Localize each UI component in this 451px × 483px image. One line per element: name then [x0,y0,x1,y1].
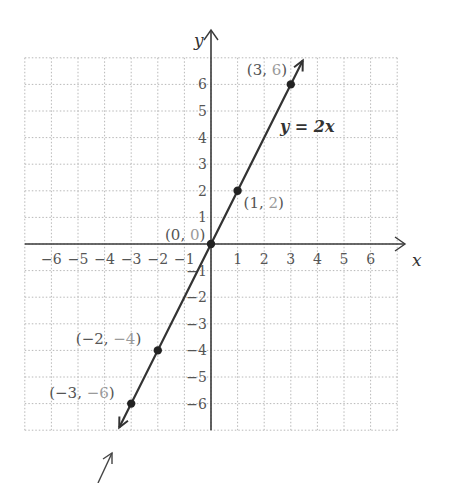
point-label: (1, 2) [244,194,284,212]
point-label: (0, 0) [165,226,205,244]
data-point-marker [127,399,135,407]
y-tick-label: −2 [186,289,207,305]
y-tick-label: 2 [198,183,207,199]
x-axis-label: x [412,250,422,270]
y-axis-label: y [193,30,204,50]
point-label: (−2, −4) [76,330,141,348]
y-tick-label: 6 [198,76,207,92]
x-tick-label: −5 [68,251,89,267]
y-tick-label: −5 [186,369,207,385]
x-tick-label: 2 [260,251,269,267]
data-point-marker [287,80,295,88]
x-tick-label: −2 [147,251,168,267]
x-tick-label: 6 [366,251,375,267]
y-tick-label: 5 [198,103,207,119]
data-point-marker [154,346,162,354]
point-label: (−3, −6) [49,384,114,402]
x-tick-label: 1 [233,251,242,267]
y-tick-label: −4 [186,342,207,358]
graph-figure: −6−5−4−3−2−1123456−6−5−4−3−2−1123456 (3,… [0,0,451,483]
y-tick-label: 3 [198,156,207,172]
x-tick-label: 3 [286,251,295,267]
x-tick-label: 4 [313,251,322,267]
point-label: (3, 6) [247,61,287,79]
y-tick-label: 1 [198,209,207,225]
x-tick-label: 5 [340,251,349,267]
equation-label: y = 2x [279,117,335,136]
coordinate-plane: −6−5−4−3−2−1123456−6−5−4−3−2−1123456 (3,… [0,0,451,483]
data-point-marker [207,240,215,248]
y-tick-label: −6 [186,396,207,412]
axes [25,30,405,430]
x-tick-label: −3 [121,251,142,267]
x-tick-label: −4 [94,251,115,267]
data-points: (3, 6)(1, 2)(0, 0)(−2, −4)(−3, −6) [49,61,295,407]
pointer-arrow-icon [98,453,112,483]
y-tick-label: 4 [198,130,207,146]
x-tick-label: −6 [41,251,62,267]
y-tick-label: −3 [186,316,207,332]
data-point-marker [233,187,241,195]
